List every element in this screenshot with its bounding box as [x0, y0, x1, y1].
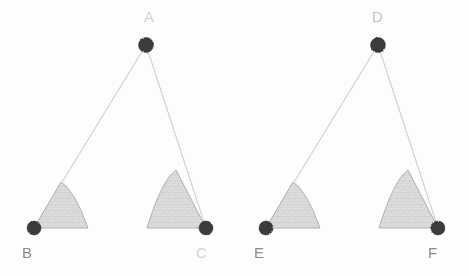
vertex-label-c: C: [196, 244, 207, 261]
angle-mark-e: [266, 182, 320, 228]
geometry-figure-container: ABCDEF: [0, 0, 469, 276]
vertex-dot-e[interactable]: [259, 221, 273, 235]
geometry-figure-canvas: ABCDEF: [0, 0, 469, 276]
triangle-def: [259, 38, 445, 236]
angle-mark-f: [379, 170, 438, 228]
vertex-label-d: D: [372, 8, 383, 25]
vertex-dot-b[interactable]: [27, 221, 41, 235]
vertex-label-f: F: [428, 244, 438, 261]
angle-mark-b: [34, 182, 88, 228]
vertex-label-a: A: [144, 8, 155, 25]
vertex-label-e: E: [254, 244, 265, 261]
vertex-dot-f[interactable]: [431, 221, 445, 235]
vertex-dot-a[interactable]: [139, 38, 154, 53]
triangles-layer: [27, 38, 445, 236]
vertex-dot-d[interactable]: [371, 38, 386, 53]
angle-mark-c: [147, 170, 206, 228]
vertex-dot-c[interactable]: [199, 221, 213, 235]
triangle-abc: [27, 38, 213, 236]
vertex-label-b: B: [22, 244, 33, 261]
